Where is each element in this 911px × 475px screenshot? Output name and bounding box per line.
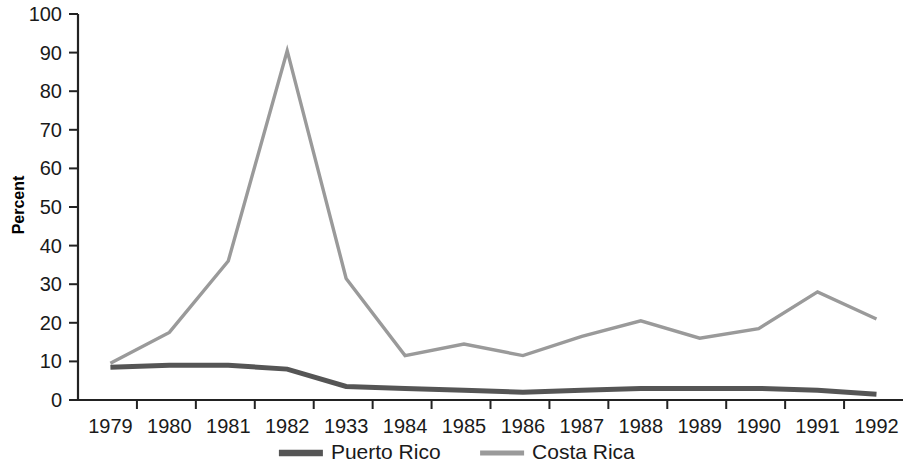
x-tick-label: 1985 bbox=[442, 415, 487, 437]
y-tick-label: 0 bbox=[51, 389, 62, 411]
y-axis-ticks: 0102030405060708090100 bbox=[29, 3, 78, 411]
line-chart: Percent 0102030405060708090100 197919801… bbox=[0, 0, 911, 475]
y-tick-label: 10 bbox=[40, 350, 62, 372]
y-tick-label: 30 bbox=[40, 273, 62, 295]
x-axis-ticks: 1979198019811982193319841985198619871988… bbox=[88, 400, 899, 437]
legend-label-puerto-rico: Puerto Rico bbox=[331, 440, 441, 463]
x-tick-label: 1982 bbox=[265, 415, 310, 437]
y-axis-label: Percent bbox=[10, 175, 27, 234]
x-tick-label: 1988 bbox=[619, 415, 664, 437]
series-line-puerto-rico bbox=[110, 365, 876, 394]
y-tick-label: 50 bbox=[40, 196, 62, 218]
x-tick-label: 1989 bbox=[677, 415, 722, 437]
series-lines bbox=[110, 51, 876, 395]
series-line-costa-rica bbox=[110, 51, 876, 364]
y-tick-label: 90 bbox=[40, 42, 62, 64]
y-tick-label: 100 bbox=[29, 3, 62, 25]
x-tick-label: 1981 bbox=[206, 415, 251, 437]
x-tick-label: 1979 bbox=[88, 415, 133, 437]
chart-legend: Puerto RicoCosta Rica bbox=[279, 440, 635, 463]
x-tick-label: 1986 bbox=[501, 415, 546, 437]
x-tick-label: 1992 bbox=[854, 415, 899, 437]
x-tick-label: 1984 bbox=[383, 415, 428, 437]
x-tick-label: 1933 bbox=[324, 415, 369, 437]
x-tick-label: 1990 bbox=[736, 415, 781, 437]
x-tick-label: 1987 bbox=[560, 415, 605, 437]
legend-label-costa-rica: Costa Rica bbox=[532, 440, 635, 463]
y-tick-label: 20 bbox=[40, 312, 62, 334]
y-tick-label: 40 bbox=[40, 235, 62, 257]
x-tick-label: 1991 bbox=[795, 415, 840, 437]
y-tick-label: 70 bbox=[40, 119, 62, 141]
y-tick-label: 60 bbox=[40, 157, 62, 179]
x-tick-label: 1980 bbox=[147, 415, 192, 437]
y-tick-label: 80 bbox=[40, 80, 62, 102]
chart-canvas: Percent 0102030405060708090100 197919801… bbox=[0, 0, 911, 475]
